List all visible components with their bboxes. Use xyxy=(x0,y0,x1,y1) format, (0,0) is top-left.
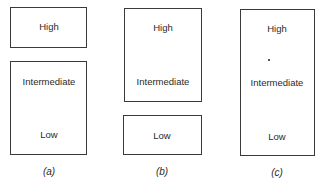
diagram-c-caption: (c) xyxy=(271,167,283,178)
diagram-b-intermediate-label: Intermediate xyxy=(137,76,190,87)
diagram-b-caption: (b) xyxy=(156,166,168,177)
diagram-a-intermediate-label: Intermediate xyxy=(23,76,76,87)
diagram-c-low-label: Low xyxy=(268,131,285,142)
diagram-a-low-label: Low xyxy=(40,129,57,140)
diagram-c-high-label: High xyxy=(267,23,287,34)
diagram-b-low-label: Low xyxy=(153,130,170,141)
diagram-a-caption: (a) xyxy=(43,166,55,177)
diagram-a-high-label: High xyxy=(39,21,59,32)
diagram-b-high-label: High xyxy=(153,22,173,33)
diagram-c-dot xyxy=(268,59,270,61)
diagram-c-intermediate-label: Intermediate xyxy=(251,77,304,88)
